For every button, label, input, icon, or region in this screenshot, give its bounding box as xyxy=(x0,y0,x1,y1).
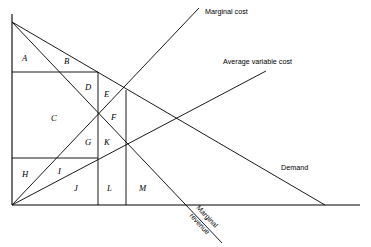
region-label-k: K xyxy=(103,137,111,147)
demand-curve xyxy=(12,22,325,205)
region-label-c: C xyxy=(51,113,57,123)
region-label-b: B xyxy=(64,56,70,66)
region-label-l: L xyxy=(106,183,112,193)
region-label-d: D xyxy=(84,82,92,92)
marginal-revenue-curve xyxy=(12,22,222,243)
region-label-i: I xyxy=(57,166,62,176)
demand-label: Demand xyxy=(281,163,308,172)
region-label-g: G xyxy=(85,137,92,147)
region-label-f: F xyxy=(110,112,117,122)
region-label-j: J xyxy=(74,183,79,193)
average-variable-cost-label: Average variable cost xyxy=(223,57,292,66)
region-label-e: E xyxy=(103,89,110,99)
economics-diagram: Marginal cost Average variable cost Dema… xyxy=(0,0,371,247)
region-label-a: A xyxy=(21,53,28,63)
region-label-h: H xyxy=(21,169,29,179)
marginal-cost-curve xyxy=(12,8,199,205)
marginal-cost-label: Marginal cost xyxy=(205,7,248,16)
diagram-canvas: Marginal cost Average variable cost Dema… xyxy=(0,0,371,247)
region-label-m: M xyxy=(138,183,147,193)
